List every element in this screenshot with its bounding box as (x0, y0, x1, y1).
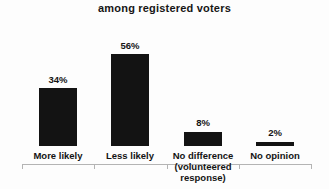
chart-title: among registered voters (0, 2, 329, 14)
bar[interactable] (111, 54, 149, 146)
bar-value-label: 8% (167, 117, 239, 128)
bar[interactable] (39, 88, 77, 146)
x-axis-label-no-opinion: No opinion (229, 150, 321, 161)
bar-group: 8% (167, 20, 239, 146)
bar-value-label: 34% (22, 74, 94, 85)
plot-area: 34% 56% 8% 2% (0, 20, 329, 146)
x-axis-label-line: response) (157, 172, 249, 183)
bar-group: 56% (94, 20, 166, 146)
bar-value-label: 2% (239, 127, 311, 138)
bar[interactable] (184, 132, 222, 146)
bar[interactable] (256, 142, 294, 146)
x-axis-label-line: (volunteered (157, 161, 249, 172)
bar-value-label: 56% (94, 40, 166, 51)
bar-group: 2% (239, 20, 311, 146)
x-axis-label-line: No opinion (229, 150, 321, 161)
bar-group: 34% (22, 20, 94, 146)
bar-chart: among registered voters 34% 56% 8% 2% Mo… (0, 0, 329, 189)
x-axis-labels: More likely Less likely No difference (v… (0, 150, 329, 189)
